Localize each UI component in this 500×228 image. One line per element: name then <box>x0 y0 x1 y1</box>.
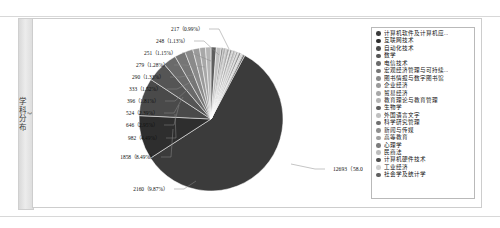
legend-item-label: 互联网技术 <box>384 37 414 44</box>
legend-item-label: 高等教育 <box>384 134 408 141</box>
legend-item-label: 数学 <box>384 52 396 59</box>
pie-slice-value-label: 290（1.33%） <box>132 74 164 80</box>
legend-color-swatch-icon <box>376 121 381 126</box>
legend-color-swatch-icon <box>376 69 381 74</box>
pie-slice-value-label: 982（4.49%） <box>128 135 160 141</box>
legend-item-label: 企业经济 <box>384 82 408 89</box>
legend-item-label: 宏观经济管理与可持续... <box>384 67 449 74</box>
pie-slice-value-label: 251（1.15%） <box>144 50 176 56</box>
legend-item-label: 教育理论与教育管理 <box>384 97 438 104</box>
legend-item-label: 贸易经济 <box>384 90 408 97</box>
pie-slice-value-label: 1858（8.49%） <box>120 154 155 160</box>
legend-item[interactable]: 工业经济 <box>376 164 471 171</box>
pie-slice-value-label: 524（2.39%） <box>126 110 158 116</box>
legend-item[interactable]: 互联网技术 <box>376 37 471 44</box>
legend-color-swatch-icon <box>376 76 381 81</box>
legend-item-label: 新闻与传媒 <box>384 127 414 134</box>
legend-color-swatch-icon <box>376 143 381 148</box>
callout-leader-line <box>209 29 229 49</box>
pie-slice-value-label: 396（1.81%） <box>127 98 159 104</box>
legend-item[interactable]: 新闻与传媒 <box>376 127 471 134</box>
legend-item-label: 自动化技术 <box>384 45 414 52</box>
legend-item-label: 社会学及统计学 <box>384 171 426 178</box>
pie-slice-value-label: 248（1.13%） <box>156 38 188 44</box>
pie-slice-value-label: 333（1.52%） <box>129 86 161 92</box>
legend-item-label: 工业经济 <box>384 164 408 171</box>
legend-item-label: 计算机硬件技术 <box>384 156 426 163</box>
legend-color-swatch-icon <box>376 98 381 103</box>
pie-slice-value-label: 279（1.28%） <box>136 62 168 68</box>
legend-item-label: 计算机软件及计算机应... <box>384 30 449 37</box>
pie-chart-area: 217（0.99%）248（1.13%）251（1.15%）279（1.28%）… <box>33 19 363 207</box>
legend-item[interactable]: 计算机硬件技术 <box>376 156 471 163</box>
pie-slice-value-label: 12693（58.01%） <box>333 166 363 172</box>
pie-slice-value-label: 646（2.95%） <box>126 122 158 128</box>
legend-item-label: 科学研究管理 <box>384 119 420 126</box>
legend-color-swatch-icon <box>376 31 381 36</box>
legend-color-swatch-icon <box>376 128 381 133</box>
legend-item-label: 生物学 <box>384 104 402 111</box>
legend-color-swatch-icon <box>376 136 381 141</box>
legend-color-swatch-icon <box>376 39 381 44</box>
legend-color-swatch-icon <box>376 106 381 111</box>
legend-color-swatch-icon <box>376 165 381 170</box>
legend-item-label: 图书情报与数字图书馆 <box>384 75 444 82</box>
pie-chart-svg: 217（0.99%）248（1.13%）251（1.15%）279（1.28%）… <box>33 19 363 207</box>
sidebar-tab-label: 学科分布 <box>18 97 26 131</box>
legend-item-label: 外国语言文字 <box>384 112 420 119</box>
legend-item-label: 心理学 <box>384 142 402 149</box>
legend-item[interactable]: 企业经济 <box>376 82 471 89</box>
legend-item-label: 电信技术 <box>384 60 408 67</box>
legend-color-swatch-icon <box>376 150 381 155</box>
legend-item[interactable]: 科学研究管理 <box>376 119 471 126</box>
legend-item[interactable]: 图书情报与数字图书馆 <box>376 75 471 82</box>
callout-leader-line <box>291 164 325 169</box>
legend-color-swatch-icon <box>376 61 381 66</box>
legend-item[interactable]: 民商法 <box>376 149 471 156</box>
legend-color-swatch-icon <box>376 173 381 178</box>
legend-item[interactable]: 计算机软件及计算机应... <box>376 30 471 37</box>
legend-item[interactable]: 自动化技术 <box>376 45 471 52</box>
legend-item[interactable]: 贸易经济 <box>376 90 471 97</box>
legend-item[interactable]: 社会学及统计学 <box>376 171 471 178</box>
legend-item[interactable]: 生物学 <box>376 104 471 111</box>
chart-panel-root: 学科分布 》 217（0.99%）248（1.13%）251（1.15%）279… <box>0 0 500 228</box>
legend-item[interactable]: 宏观经济管理与可持续... <box>376 67 471 74</box>
legend-color-swatch-icon <box>376 91 381 96</box>
chart-legend: 计算机软件及计算机应...互联网技术自动化技术数学电信技术宏观经济管理与可持续.… <box>371 27 475 199</box>
legend-item[interactable]: 心理学 <box>376 142 471 149</box>
top-divider <box>0 16 500 17</box>
legend-item[interactable]: 外国语言文字 <box>376 112 471 119</box>
legend-color-swatch-icon <box>376 83 381 88</box>
legend-color-swatch-icon <box>376 46 381 51</box>
legend-item[interactable]: 数学 <box>376 52 471 59</box>
chart-panel: 217（0.99%）248（1.13%）251（1.15%）279（1.28%）… <box>32 18 482 208</box>
legend-item[interactable]: 教育理论与教育管理 <box>376 97 471 104</box>
legend-item-label: 民商法 <box>384 149 402 156</box>
bottom-divider <box>0 216 500 217</box>
pie-slice-value-label: 217（0.99%） <box>171 26 203 32</box>
legend-item[interactable]: 电信技术 <box>376 60 471 67</box>
legend-color-swatch-icon <box>376 54 381 59</box>
pie-slice-value-label: 2160（9.87%） <box>133 186 168 192</box>
legend-item[interactable]: 高等教育 <box>376 134 471 141</box>
legend-color-swatch-icon <box>376 158 381 163</box>
legend-color-swatch-icon <box>376 113 381 118</box>
